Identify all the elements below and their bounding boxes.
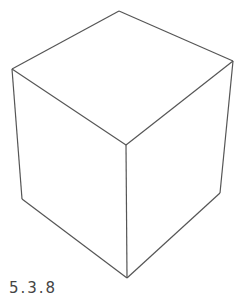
edge-bottom-right [127, 193, 220, 278]
edge-top-back-right [119, 11, 233, 61]
edge-bottom-left [22, 199, 127, 278]
edge-top-front-left [12, 69, 126, 145]
edge-vertical-right [220, 61, 233, 193]
figure-label: 5.3.8 [9, 279, 57, 297]
edge-vertical-front [126, 145, 127, 278]
edge-top-back-left [12, 11, 119, 69]
edge-vertical-left [12, 69, 22, 199]
cube-outline [12, 11, 233, 278]
edge-top-front-right [126, 61, 233, 145]
